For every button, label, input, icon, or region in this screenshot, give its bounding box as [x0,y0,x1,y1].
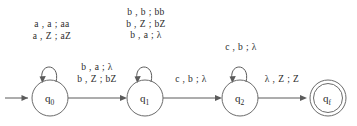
edge-q1-q2-label-line-0: c , b ; λ [156,74,226,86]
self-loop-q2-label: c , b ; λ [203,42,279,54]
automaton-diagram: q0 q1 q2 qf a , a ; aa a , Z ; aZ b , b … [0,0,357,126]
edge-q0-q1-arrowhead [120,95,127,101]
edge-q0-q1-label-line-1: b , Z ; bZ [62,74,132,86]
edge-q1-q2 [163,95,222,101]
state-q2-label: q2 [235,92,245,107]
edge-q2-qf-label: λ , Z ; Z [248,74,316,86]
start-arrow [5,95,28,101]
self-loop-q2-label-line-0: c , b ; λ [203,42,279,54]
edge-q0-q1 [68,95,127,101]
self-loop-q0-label-line-1: a , Z ; aZ [16,31,88,43]
self-loop-q1-label: b , b ; bb b , Z ; bZ b , a ; λ [108,7,184,42]
self-loop-q0-label-line-0: a , a ; aa [16,19,88,31]
edge-q2-qf [258,95,307,101]
edge-q2-qf-arrowhead [300,95,307,101]
state-q0-label: q0 [45,92,55,107]
edge-q1-q2-label: c , b ; λ [156,74,226,86]
edge-q0-q1-label: b , a ; λ b , Z ; bZ [62,62,132,85]
state-qf-label: qf [323,92,332,107]
state-q0[interactable]: q0 [32,80,68,116]
edge-q2-qf-label-line-0: λ , Z ; Z [248,74,316,86]
edge-q0-q1-label-line-0: b , a ; λ [62,62,132,74]
self-loop-q0-label: a , a ; aa a , Z ; aZ [16,19,88,42]
start-arrowhead [22,95,29,101]
edge-q1-q2-arrowhead [215,95,222,101]
self-loop-q1-label-line-1: b , Z ; bZ [108,19,184,31]
self-loop-q1-label-line-2: b , a ; λ [108,30,184,42]
self-loop-q1-label-line-0: b , b ; bb [108,7,184,19]
state-q1-label: q1 [140,92,150,107]
